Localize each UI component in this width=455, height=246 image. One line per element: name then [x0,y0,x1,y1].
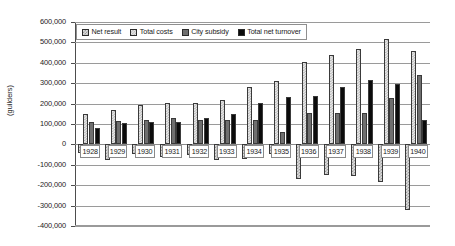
legend-label-city-subsidy: City subsidy [191,28,229,36]
y-tick-mark [71,206,75,207]
legend-item-net-result: Net result [82,28,121,36]
y-tick-label: 200,000 [4,100,66,108]
bar [193,103,198,145]
bar [384,39,389,144]
bar-group [239,22,266,226]
x-tick-label: 1936 [299,145,319,158]
legend-label-net-result: Net result [92,28,122,36]
bar [422,120,427,144]
bar [149,122,154,145]
bar [122,123,127,144]
bar [225,120,230,144]
bar [204,118,209,144]
gridline [75,226,430,227]
bar-group [130,22,157,226]
bar [329,55,334,145]
bar [335,113,340,144]
x-tick-label: 1938 [353,145,373,158]
bar [220,100,225,144]
y-tick-mark [71,144,75,145]
legend-swatch-net-result [82,29,89,36]
bar [417,75,422,144]
x-tick-label: 1940 [408,145,428,158]
bar [362,113,367,145]
x-tick-label: 1935 [271,145,291,158]
chart-legend: Net result Total costs City subsidy Tota… [76,24,307,40]
bar-group [348,22,375,226]
x-tick-label: 1937 [326,145,346,158]
x-tick-label: 1928 [80,145,100,158]
bar [286,97,291,144]
legend-item-city-subsidy: City subsidy [182,28,229,36]
bar-group [375,22,402,226]
bar [138,105,143,144]
x-tick-label: 1930 [135,145,155,158]
y-tick-label: -300,000 [4,202,66,210]
bar [253,120,258,145]
y-tick-mark [71,226,75,227]
bar-group [321,22,348,226]
legend-label-total-net-turnover: Total net turnover [247,28,301,36]
bar [95,128,100,144]
legend-item-total-costs: Total costs [130,28,172,36]
bar [274,81,279,145]
bar [171,118,176,144]
y-tick-label: 600,000 [4,18,66,26]
bar-group [184,22,211,226]
bar [313,96,318,145]
x-tick-label: 1932 [189,145,209,158]
bar [307,113,312,144]
x-tick-label: 1933 [217,145,237,158]
bar [231,114,236,144]
bar-groups [75,22,430,226]
y-tick-mark [71,42,75,43]
bar [198,120,203,145]
bar-group [102,22,129,226]
y-tick-mark [71,63,75,64]
bar [89,122,94,144]
bar [280,132,285,145]
bar-group [266,22,293,226]
bar-group [293,22,320,226]
x-tick-label: 1929 [108,145,128,158]
chart-container: (guilders) 19281929193019311932193319341… [0,0,455,246]
y-tick-label: 300,000 [4,79,66,87]
y-tick-mark [71,185,75,186]
y-tick-mark [71,104,75,105]
y-tick-label: -400,000 [4,222,66,230]
bar [165,103,170,145]
y-tick-mark [71,83,75,84]
y-tick-mark [71,22,75,23]
bar [116,121,121,144]
y-tick-label: 400,000 [4,59,66,67]
legend-item-total-net-turnover: Total net turnover [238,28,301,36]
legend-label-total-costs: Total costs [140,28,173,36]
y-tick-mark [71,124,75,125]
bar [340,87,345,145]
bar-group [212,22,239,226]
y-tick-label: 500,000 [4,38,66,46]
bar-group [403,22,430,226]
x-tick-label: 1931 [162,145,182,158]
y-tick-label: -200,000 [4,181,66,189]
legend-swatch-total-costs [130,29,137,36]
legend-swatch-city-subsidy [182,29,189,36]
bar [356,49,361,144]
bar [389,98,394,145]
bar [247,87,252,145]
bar [144,120,149,145]
bar [302,62,307,144]
x-tick-label: 1939 [381,145,401,158]
plot-area: 1928192919301931193219331934193519361937… [75,22,430,226]
bar [176,122,181,145]
y-tick-label: 0 [4,140,66,148]
y-tick-label: 100,000 [4,120,66,128]
bar [368,80,373,145]
legend-swatch-total-net-turnover [238,29,245,36]
bar-group [75,22,102,226]
bar [411,51,416,145]
y-tick-mark [71,165,75,166]
y-tick-label: -100,000 [4,161,66,169]
x-tick-label: 1934 [244,145,264,158]
bar [111,110,116,144]
